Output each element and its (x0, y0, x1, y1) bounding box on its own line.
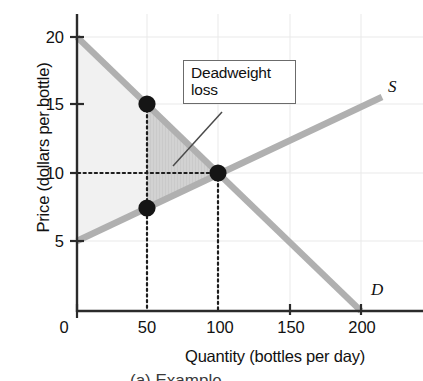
x-tick-label-100: 100 (206, 318, 234, 337)
y-tick-label-10: 10 (36, 164, 64, 183)
x-tick-label-50: 50 (138, 318, 156, 337)
callout-line-2: loss (191, 81, 289, 98)
deadweight-loss-callout: Deadweight loss (183, 60, 296, 104)
supply-curve-label: S (388, 77, 397, 97)
y-tick-label-20: 20 (36, 28, 64, 47)
figure-caption-partial: (a) Example (130, 371, 330, 381)
callout-line-1: Deadweight (191, 64, 289, 81)
x-tick-label-200: 200 (348, 318, 376, 337)
y-tick-label-5: 5 (36, 232, 64, 251)
x-tick-label-0: 0 (59, 318, 68, 337)
x-axis-title: Quantity (bottles per day) (185, 347, 365, 366)
y-axis-title: Price (dollars per bottle) (34, 33, 53, 263)
demand-curve-label: D (371, 280, 383, 300)
marker-demand-price-at-50 (138, 95, 155, 112)
marker-equilibrium (209, 164, 226, 181)
x-tick-label-150: 150 (277, 318, 305, 337)
economics-supply-demand-figure: Price (dollars per bottle) 20 15 10 5 0 … (0, 0, 423, 381)
marker-supply-price-at-50 (138, 199, 155, 216)
y-tick-label-15: 15 (36, 95, 64, 114)
